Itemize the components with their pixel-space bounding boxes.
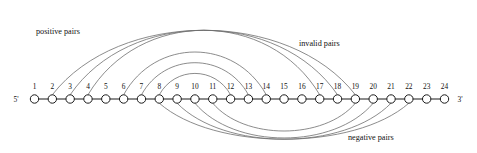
nucleotide-index-label-15: 15	[280, 82, 288, 91]
nucleotide-index-label-11: 11	[209, 82, 216, 91]
group-label-invalid-pairs: invalid pairs	[299, 39, 340, 48]
group-label-negative-pairs: negative pairs	[348, 133, 394, 142]
base-pair-arc-10-20	[195, 103, 373, 138]
nucleotide-node-11	[209, 95, 217, 103]
nucleotide-index-label-21: 21	[387, 82, 395, 91]
nucleotide-index-label-19: 19	[352, 82, 360, 91]
nucleotide-node-22	[405, 95, 413, 103]
nucleotide-node-10	[191, 95, 199, 103]
nucleotide-index-label-2: 2	[50, 82, 54, 91]
nucleotide-index-label-23: 23	[423, 82, 431, 91]
nucleotide-node-2	[48, 95, 56, 103]
nucleotide-node-18	[333, 95, 341, 103]
nucleotide-node-15	[280, 95, 288, 103]
nucleotide-index-label-7: 7	[140, 82, 144, 91]
nucleotide-node-24	[440, 95, 448, 103]
nucleotide-node-9	[173, 95, 181, 103]
nucleotide-index-label-18: 18	[334, 82, 342, 91]
nucleotide-node-14	[262, 95, 270, 103]
nucleotide-node-17	[316, 95, 324, 103]
rna-arc-diagram: 123456789101112131415161718192021222324 …	[0, 0, 477, 153]
nucleotide-index-label-13: 13	[245, 82, 253, 91]
nucleotide-node-20	[369, 95, 377, 103]
nucleotide-index-label-8: 8	[157, 82, 161, 91]
nucleotide-node-4	[84, 95, 92, 103]
five-prime-label: 5'	[14, 95, 20, 104]
nucleotide-index-label-20: 20	[370, 82, 378, 91]
nucleotide-index-label-9: 9	[175, 82, 179, 91]
nucleotide-node-21	[387, 95, 395, 103]
nucleotide-index-label-16: 16	[298, 82, 306, 91]
group-label-positive-pairs: positive pairs	[36, 27, 80, 36]
three-prime-label: 3'	[458, 95, 464, 104]
nucleotide-index-label-14: 14	[263, 82, 271, 91]
nucleotide-node-1	[30, 95, 38, 103]
nucleotide-index-label-5: 5	[104, 82, 108, 91]
nucleotide-index-label-4: 4	[86, 82, 90, 91]
nucleotide-index-label-12: 12	[227, 82, 235, 91]
nucleotide-node-7	[137, 95, 145, 103]
arc-diagram-container: 123456789101112131415161718192021222324 …	[0, 0, 477, 153]
nucleotide-node-5	[102, 95, 110, 103]
nucleotide-node-3	[66, 95, 74, 103]
nucleotide-index-label-6: 6	[122, 82, 126, 91]
nucleotide-index-label-3: 3	[68, 82, 72, 91]
nucleotide-node-6	[119, 95, 127, 103]
nucleotide-node-16	[298, 95, 306, 103]
nucleotide-node-19	[351, 95, 359, 103]
nucleotide-node-12	[226, 95, 234, 103]
base-pair-arc-11-19	[213, 103, 356, 131]
nucleotide-node-8	[155, 95, 163, 103]
nucleotide-index-label-24: 24	[441, 82, 449, 91]
nucleotide-index-label-22: 22	[405, 82, 413, 91]
nucleotide-index-label-1: 1	[33, 82, 37, 91]
nucleotide-node-23	[422, 95, 430, 103]
nucleotide-node-13	[244, 95, 252, 103]
nucleotide-index-label-10: 10	[191, 82, 199, 91]
nucleotide-index-label-17: 17	[316, 82, 324, 91]
